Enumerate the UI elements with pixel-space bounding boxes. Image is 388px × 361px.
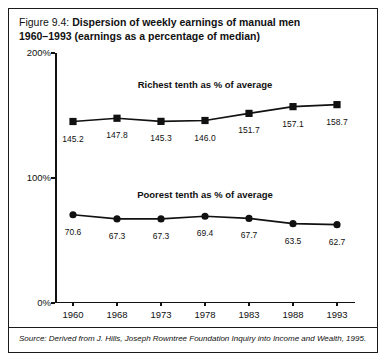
y-tick-mark bbox=[51, 302, 55, 304]
x-tick-label: 1993 bbox=[326, 309, 347, 320]
x-tick-mark bbox=[336, 302, 338, 306]
data-point-label: 146.0 bbox=[194, 133, 215, 143]
x-tick-mark bbox=[248, 302, 250, 306]
figure-number: Figure 9.4: bbox=[19, 16, 72, 28]
x-tick-mark bbox=[116, 302, 118, 306]
figure-container: Figure 9.4: Dispersion of weekly earning… bbox=[8, 8, 378, 353]
data-point-label: 70.6 bbox=[65, 227, 82, 237]
data-point-marker bbox=[245, 215, 252, 222]
data-point-marker bbox=[113, 115, 120, 122]
data-point-marker bbox=[201, 213, 208, 220]
figure-title-line2: 1960–1993 (earnings as a percentage of m… bbox=[19, 30, 260, 42]
chart-plot-area: 0%100%200%196019681973197819831988199314… bbox=[55, 53, 355, 303]
data-point-marker bbox=[157, 118, 164, 125]
data-point-marker bbox=[289, 103, 296, 110]
source-note: Source: Derived from J. Hills, Joseph Ro… bbox=[9, 327, 377, 352]
source-text: Source: Derived from J. Hills, Joseph Ro… bbox=[19, 334, 366, 343]
chart-series-lines bbox=[55, 53, 355, 303]
data-point-marker bbox=[201, 117, 208, 124]
x-tick-label: 1988 bbox=[282, 309, 303, 320]
x-tick-mark bbox=[160, 302, 162, 306]
figure-caption: Figure 9.4: Dispersion of weekly earning… bbox=[19, 15, 369, 43]
data-point-label: 145.2 bbox=[62, 134, 83, 144]
y-tick-label: 100% bbox=[27, 172, 51, 183]
data-point-label: 67.7 bbox=[241, 230, 258, 240]
x-tick-mark bbox=[292, 302, 294, 306]
x-tick-label: 1960 bbox=[62, 309, 83, 320]
data-point-marker bbox=[245, 110, 252, 117]
data-point-label: 67.3 bbox=[109, 231, 126, 241]
x-tick-label: 1968 bbox=[106, 309, 127, 320]
data-point-label: 147.8 bbox=[106, 130, 127, 140]
x-tick-label: 1973 bbox=[150, 309, 171, 320]
data-point-label: 157.1 bbox=[282, 119, 303, 129]
data-point-label: 158.7 bbox=[326, 117, 347, 127]
data-point-label: 69.4 bbox=[197, 228, 214, 238]
y-tick-mark bbox=[51, 177, 55, 179]
data-point-marker bbox=[289, 220, 296, 227]
data-point-marker bbox=[333, 221, 340, 228]
x-tick-mark bbox=[204, 302, 206, 306]
y-tick-label: 0% bbox=[37, 297, 51, 308]
data-point-label: 67.3 bbox=[153, 231, 170, 241]
data-point-marker bbox=[69, 118, 76, 125]
figure-title-line1: Dispersion of weekly earnings of manual … bbox=[72, 16, 300, 28]
x-tick-label: 1983 bbox=[238, 309, 259, 320]
x-tick-label: 1978 bbox=[194, 309, 215, 320]
data-point-label: 63.5 bbox=[285, 236, 302, 246]
x-tick-mark bbox=[72, 302, 74, 306]
data-point-marker bbox=[69, 211, 76, 218]
data-point-label: 62.7 bbox=[329, 237, 346, 247]
series-label: Richest tenth as % of average bbox=[138, 79, 273, 90]
data-point-label: 145.3 bbox=[150, 133, 171, 143]
data-point-marker bbox=[157, 215, 164, 222]
y-tick-mark bbox=[51, 52, 55, 54]
data-point-label: 151.7 bbox=[238, 125, 259, 135]
data-point-marker bbox=[113, 215, 120, 222]
y-tick-label: 200% bbox=[27, 47, 51, 58]
series-label: Poorest tenth as % of average bbox=[137, 189, 273, 200]
data-point-marker bbox=[333, 101, 340, 108]
